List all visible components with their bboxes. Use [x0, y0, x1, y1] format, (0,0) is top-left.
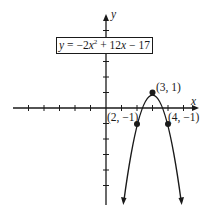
curve-arrow-left-icon	[121, 197, 127, 205]
equation-box: y = −2x2 + 12x − 17	[56, 37, 153, 54]
equation-rest1: + 12	[97, 39, 121, 51]
y-axis-label: y	[111, 9, 116, 21]
curve-arrow-right-icon	[179, 197, 185, 205]
equation-eq: = −2	[64, 39, 88, 51]
vertex-label: (3, 1)	[156, 82, 181, 94]
point-label-4-neg1: (4, −1)	[168, 112, 199, 124]
y-axis-arrow-icon	[103, 14, 109, 21]
equation-rest2: − 17	[126, 39, 150, 51]
vertex-point	[150, 90, 156, 96]
graph-canvas	[0, 0, 209, 215]
point-label-2-neg1: (2, −1)	[107, 112, 138, 124]
x-axis-label: x	[191, 96, 196, 108]
